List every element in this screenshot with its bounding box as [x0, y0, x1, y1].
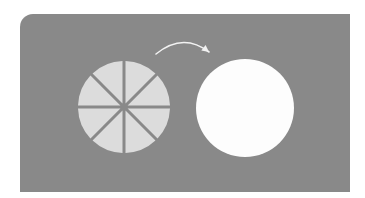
curved-arrow-icon	[156, 42, 209, 54]
sliced-circle	[78, 61, 170, 153]
diagram-canvas	[0, 0, 365, 198]
whole-circle	[196, 59, 294, 157]
